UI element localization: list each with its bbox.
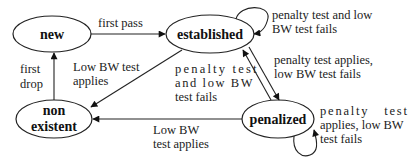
edge-label-first: first — [20, 62, 41, 76]
node-penalized: penalized — [242, 100, 314, 138]
node-non-existent-line1: non — [43, 103, 66, 118]
edge-label-est-self-2: BW test fails — [272, 22, 337, 36]
node-new: new — [13, 16, 91, 52]
edge-label-drop: drop — [20, 77, 43, 91]
edge-label-low-bw-applies-1: Low BW test — [73, 60, 140, 74]
edge-label-pen-to-non-2: test applies — [153, 137, 209, 151]
edge-label-pen-to-non-1: Low BW — [153, 123, 199, 137]
edge-label-pen-self-1: penalty test — [320, 104, 409, 118]
edge-label-low-bw-applies-2: applies — [73, 74, 109, 88]
node-established-label: established — [177, 27, 243, 42]
node-non-existent-line2: existent — [31, 119, 77, 134]
edge-label-pen-to-est-1: penalty test — [175, 62, 259, 76]
edge-label-est-self-1: penalty test and low — [272, 8, 372, 22]
node-non-existent: non existent — [16, 100, 92, 138]
edge-label-pen-self-3: test fails — [320, 132, 362, 146]
edge-label-est-to-pen-1: penalty test applies, — [274, 53, 373, 67]
node-new-label: new — [40, 27, 65, 42]
state-diagram: new established non existent penalized f… — [0, 0, 418, 167]
node-penalized-label: penalized — [250, 112, 307, 127]
edge-label-est-to-pen-2: low BW test fails — [274, 67, 361, 81]
edge-label-pen-to-est-2: and low BW — [175, 76, 254, 90]
node-established: established — [166, 15, 254, 53]
edge-label-pen-to-est-3: test fails — [175, 90, 217, 104]
edge-label-first-pass: first pass — [98, 16, 143, 30]
edge-label-pen-self-2: applies, low BW — [320, 118, 404, 132]
